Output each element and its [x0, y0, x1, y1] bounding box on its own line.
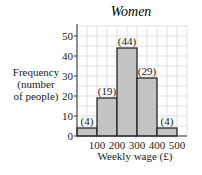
y-tick-label: 10 — [62, 110, 74, 122]
bar-value-label: (29) — [138, 65, 157, 78]
y-axis-label: Frequency(numberof people) — [13, 66, 60, 103]
bar-value-label: (19) — [98, 85, 117, 98]
histogram-bar — [77, 128, 97, 136]
svg-text:Frequency(numberof people): Frequency(numberof people) — [13, 66, 60, 103]
histogram-bar — [97, 98, 117, 136]
y-tick-label: 20 — [62, 90, 74, 102]
histogram-bar — [137, 78, 157, 136]
chart-title: Women — [111, 4, 152, 19]
bar-value-label: (4) — [81, 115, 94, 128]
histogram-chart: Women (4)(19)(44)(29)(4) 01020304050 100… — [0, 0, 202, 175]
bar-value-label: (44) — [118, 35, 137, 48]
y-tick-label: 0 — [68, 130, 74, 142]
y-ticks: 01020304050 — [62, 30, 77, 142]
histogram-bar — [117, 48, 137, 136]
y-tick-label: 30 — [62, 70, 74, 82]
y-tick-label: 40 — [62, 50, 74, 62]
bar-value-label: (4) — [161, 115, 174, 128]
histogram-bar — [157, 128, 177, 136]
x-axis-label: Weekly wage (£) — [98, 150, 173, 163]
y-tick-label: 50 — [62, 30, 74, 42]
